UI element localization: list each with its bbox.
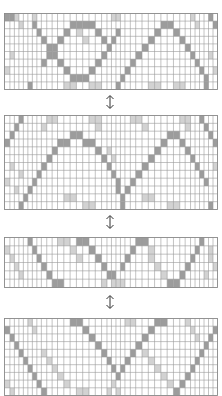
light-cell (111, 279, 115, 287)
dark-cell (37, 380, 41, 388)
light-cell (41, 123, 46, 131)
dark-cell (130, 349, 135, 357)
dark-cell (47, 155, 52, 163)
light-cell (47, 357, 52, 365)
light-cell (155, 82, 161, 90)
light-cell (130, 319, 135, 327)
dark-cell (111, 170, 115, 178)
light-cell (58, 238, 64, 246)
light-cell (19, 271, 23, 279)
dark-cell (89, 246, 95, 254)
dark-cell (200, 349, 204, 357)
light-cell (213, 67, 217, 75)
dark-cell (204, 123, 208, 131)
dark-cell (136, 170, 142, 178)
light-cell (148, 357, 154, 365)
dark-cell (204, 342, 208, 350)
light-cell (14, 263, 18, 271)
dark-cell (64, 139, 70, 147)
dark-cell (195, 246, 199, 254)
light-cell (142, 123, 148, 131)
dark-cell (52, 44, 57, 52)
dark-cell (70, 74, 76, 82)
dark-cell (47, 271, 52, 279)
light-cell (161, 372, 167, 380)
light-cell (58, 372, 64, 380)
light-cell (19, 170, 23, 178)
dark-cell (180, 36, 185, 44)
dark-cell (200, 116, 204, 124)
dark-cell (185, 44, 190, 52)
light-cell (89, 82, 95, 90)
dark-cell (41, 163, 46, 171)
dark-cell (148, 155, 154, 163)
dark-cell (167, 279, 173, 287)
light-cell (155, 365, 161, 373)
dark-cell (130, 59, 135, 67)
dark-cell (70, 131, 76, 139)
dark-cell (130, 178, 135, 186)
dark-cell (195, 59, 199, 67)
light-cell (167, 202, 173, 210)
dark-cell (14, 342, 18, 350)
light-cell (116, 279, 120, 287)
light-cell (213, 163, 217, 171)
dark-cell (155, 147, 161, 155)
dark-cell (23, 194, 27, 202)
light-cell (10, 52, 14, 60)
dark-cell (173, 29, 179, 37)
dark-cell (10, 131, 14, 139)
dark-cell (102, 263, 107, 271)
light-cell (209, 52, 213, 60)
dark-cell (209, 334, 213, 342)
dark-cell (32, 178, 36, 186)
dark-cell (41, 36, 46, 44)
light-cell (209, 246, 213, 254)
light-cell (195, 21, 199, 29)
light-cell (95, 123, 101, 131)
dark-cell (142, 163, 148, 171)
light-cell (64, 194, 70, 202)
light-cell (5, 246, 10, 254)
dark-cell (204, 74, 208, 82)
dark-cell (102, 349, 107, 357)
dark-cell (28, 82, 32, 90)
dark-cell (167, 21, 173, 29)
dark-cell (37, 170, 41, 178)
dark-cell (125, 186, 130, 194)
dark-cell (47, 44, 52, 52)
dark-cell (125, 357, 130, 365)
dark-cell (70, 319, 76, 327)
light-cell (19, 21, 23, 29)
dark-cell (102, 52, 107, 60)
light-cell (148, 194, 154, 202)
light-cell (28, 319, 32, 327)
dark-cell (83, 326, 89, 334)
light-cell (185, 123, 190, 131)
dark-cell (41, 263, 46, 271)
light-cell (148, 254, 154, 262)
light-cell (148, 246, 154, 254)
dark-cell (116, 82, 120, 90)
light-cell (155, 263, 161, 271)
dark-cell (111, 271, 115, 279)
dark-cell (32, 21, 36, 29)
light-cell (83, 202, 89, 210)
dark-cell (111, 365, 115, 373)
light-cell (14, 14, 18, 22)
light-cell (10, 163, 14, 171)
dark-cell (185, 263, 190, 271)
dark-cell (64, 67, 70, 75)
dark-cell (195, 163, 199, 171)
dark-cell (209, 14, 213, 22)
dark-cell (120, 365, 124, 373)
dark-cell (107, 44, 111, 52)
dark-cell (58, 279, 64, 287)
dark-cell (213, 326, 217, 334)
dark-cell (213, 21, 217, 29)
light-cell (107, 147, 111, 155)
light-cell (64, 82, 70, 90)
dark-cell (155, 319, 161, 327)
dark-cell (23, 357, 27, 365)
light-cell (142, 194, 148, 202)
